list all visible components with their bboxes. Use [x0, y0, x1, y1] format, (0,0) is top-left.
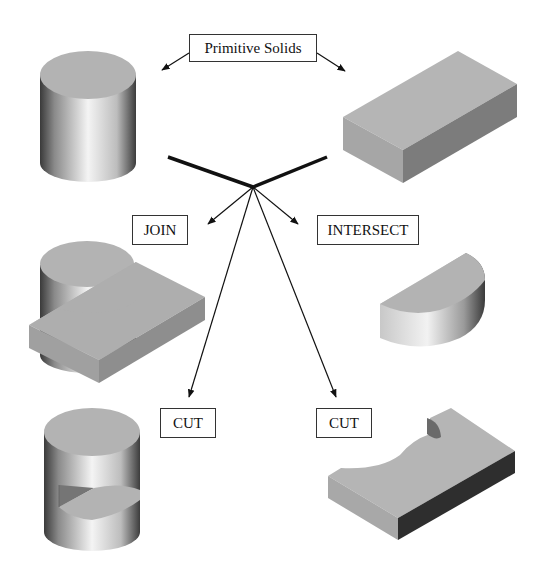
- label-join: JOIN: [132, 215, 188, 245]
- intersect-result-solid: [380, 253, 485, 347]
- block-primitive: [343, 51, 517, 183]
- cut-cylinder-result: [44, 408, 140, 551]
- arrow-join: [208, 187, 253, 224]
- label-primitive-solids: Primitive Solids: [189, 34, 317, 62]
- label-cut-left: CUT: [160, 408, 216, 438]
- boolean-operations-diagram: [0, 0, 548, 584]
- join-result-solid: [29, 241, 205, 383]
- bold-line-left: [168, 157, 253, 187]
- arrow-to-block: [317, 53, 345, 71]
- label-cut-right: CUT: [316, 408, 372, 438]
- arrow-to-cylinder: [162, 53, 189, 70]
- cylinder-primitive: [40, 51, 136, 182]
- arrow-cut-left: [189, 187, 253, 397]
- label-intersect: INTERSECT: [317, 215, 419, 245]
- bold-line-right: [253, 157, 327, 187]
